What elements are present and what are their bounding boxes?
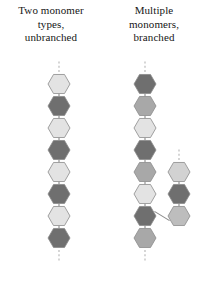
monomer-hexagon	[48, 118, 70, 137]
branch-attachment-bond	[154, 211, 169, 220]
monomer-hexagon	[134, 206, 156, 225]
monomer-hexagon	[134, 228, 156, 247]
monomer-hexagon	[134, 74, 156, 93]
monomer-hexagon	[48, 162, 70, 181]
polymer-diagram-figure: Two monomer types, unbranched Multiple m…	[0, 0, 205, 289]
monomer-hexagon	[168, 184, 190, 203]
monomer-hexagon	[134, 140, 156, 159]
monomer-hexagon	[168, 206, 190, 225]
monomer-hexagon	[48, 96, 70, 115]
monomer-hexagon	[134, 118, 156, 137]
panel-two-monomer-types: Two monomer types, unbranched	[0, 0, 102, 289]
monomer-hexagon	[134, 162, 156, 181]
monomer-hexagon	[134, 184, 156, 203]
monomer-hexagon	[48, 140, 70, 159]
chain-diagram-left	[0, 0, 102, 289]
monomer-hexagon	[48, 228, 70, 247]
monomer-hexagon	[48, 184, 70, 203]
chain-diagram-right	[103, 0, 205, 289]
monomer-hexagon	[134, 96, 156, 115]
panel-multiple-monomers: Multiple monomers, branched	[103, 0, 205, 289]
monomer-hexagon	[168, 162, 190, 181]
monomer-hexagon	[48, 74, 70, 93]
monomer-hexagon	[48, 206, 70, 225]
